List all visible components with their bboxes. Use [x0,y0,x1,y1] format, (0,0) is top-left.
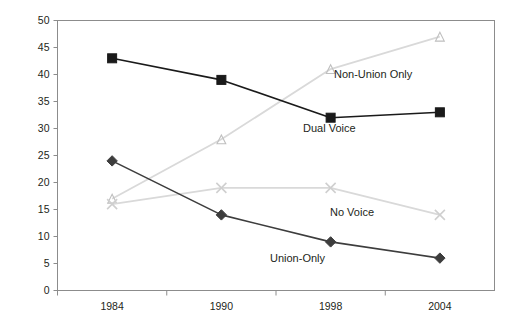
y-tick-label: 20 [38,176,50,188]
series-label: Union-Only [270,252,326,264]
line-chart: 05101520253035404550 1984199019982004 Du… [0,0,520,328]
chart-canvas: 05101520253035404550 1984199019982004 Du… [0,0,520,328]
marker-square [435,108,444,117]
y-tick-label: 15 [38,203,50,215]
x-tick-label: 1998 [319,300,343,312]
x-axis-ticks: 1984199019982004 [58,291,452,312]
series-label: Non-Union Only [334,68,413,80]
y-tick-label: 5 [44,257,50,269]
y-tick-label: 10 [38,230,50,242]
marker-square [108,54,117,63]
y-axis-ticks: 05101520253035404550 [38,14,58,296]
y-tick-label: 40 [38,68,50,80]
x-tick-label: 1984 [100,300,124,312]
x-tick-label: 1990 [210,300,234,312]
y-tick-label: 0 [44,284,50,296]
marker-square [217,75,226,84]
series-label: Dual Voice [303,122,356,134]
series-label: No Voice [330,206,374,218]
y-tick-label: 35 [38,95,50,107]
y-tick-label: 50 [38,14,50,26]
x-tick-label: 2004 [428,300,452,312]
marker-square [326,113,335,122]
y-tick-label: 30 [38,122,50,134]
y-tick-label: 45 [38,41,50,53]
y-tick-label: 25 [38,149,50,161]
